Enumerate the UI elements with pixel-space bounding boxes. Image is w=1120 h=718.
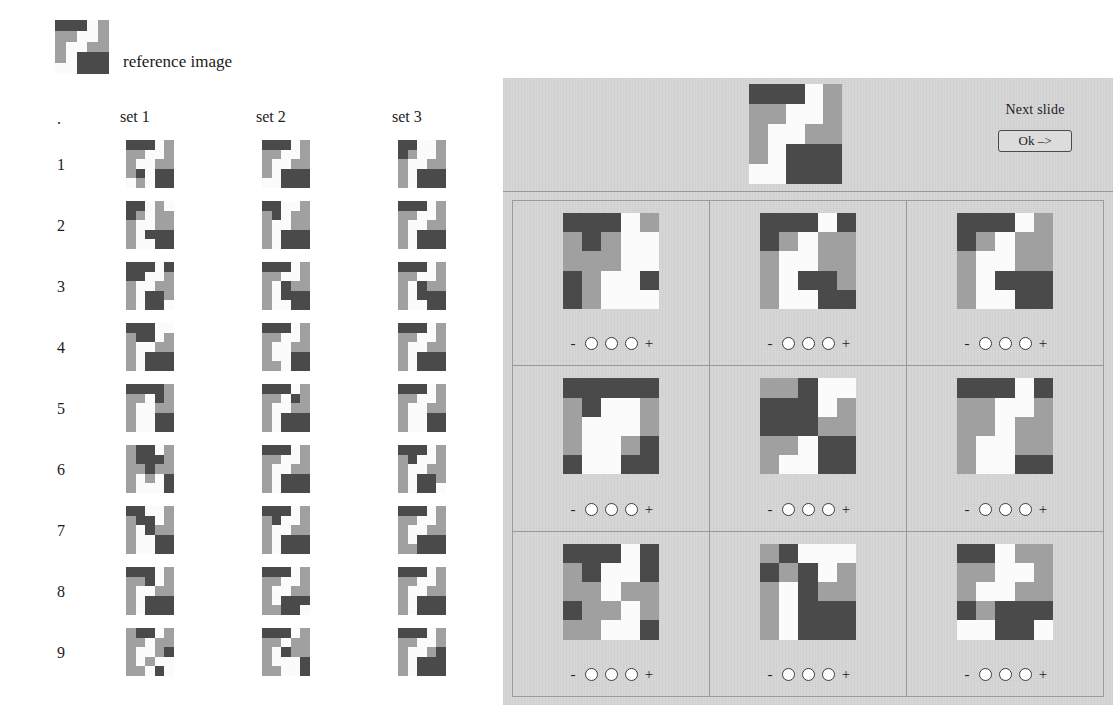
pattern-cell <box>300 506 310 516</box>
pattern-cell <box>145 474 155 484</box>
pattern-cell <box>417 455 427 465</box>
pattern-cell <box>272 525 282 535</box>
rating-radio-4-3[interactable] <box>625 503 638 516</box>
pattern-cell <box>601 213 620 232</box>
pattern-cell <box>601 601 620 620</box>
pattern-cell <box>427 413 437 423</box>
pattern-cell <box>272 628 282 638</box>
rating-radio-1-1[interactable] <box>585 337 598 350</box>
pattern-cell <box>281 628 291 638</box>
ok-button[interactable]: Ok –> <box>998 130 1072 152</box>
thumbnail-set-3-row-6 <box>398 445 446 493</box>
rating-radio-4-1[interactable] <box>585 503 598 516</box>
pattern-cell <box>291 483 301 493</box>
rating-radio-8-1[interactable] <box>782 668 795 681</box>
choice-cell-8[interactable]: -+ <box>710 532 907 697</box>
rating-radio-9-2[interactable] <box>999 668 1012 681</box>
choice-cell-5[interactable]: -+ <box>710 366 907 531</box>
rating-radio-9-3[interactable] <box>1019 668 1032 681</box>
pattern-cell <box>164 220 174 230</box>
pattern-cell <box>155 140 165 150</box>
pattern-cell <box>749 84 768 104</box>
pattern-cell <box>976 290 995 309</box>
pattern-cell <box>837 455 856 474</box>
pattern-cell <box>1034 251 1053 270</box>
reference-pattern-grid <box>55 20 109 74</box>
pattern-cell <box>155 455 165 465</box>
pattern-cell <box>640 271 659 290</box>
choice-cell-6[interactable]: -+ <box>907 366 1104 531</box>
pattern-cell <box>126 445 136 455</box>
pattern-cell <box>126 333 136 343</box>
rating-radio-7-1[interactable] <box>585 668 598 681</box>
pattern-cell <box>272 150 282 160</box>
pattern-cell <box>300 230 310 240</box>
rating-radio-6-3[interactable] <box>1019 503 1032 516</box>
rating-radio-1-3[interactable] <box>625 337 638 350</box>
pattern-cell <box>155 201 165 211</box>
choice-cell-9[interactable]: -+ <box>907 532 1104 697</box>
pattern-cell <box>408 140 418 150</box>
pattern-cell <box>126 220 136 230</box>
pattern-cell <box>417 150 427 160</box>
pattern-cell <box>417 605 427 615</box>
pattern-cell <box>145 403 155 413</box>
pattern-cell <box>779 563 798 582</box>
rating-control-2: -+ <box>710 336 906 351</box>
pattern-cell <box>136 516 146 526</box>
pattern-cell <box>408 323 418 333</box>
pattern-cell <box>291 506 301 516</box>
pattern-cell <box>1015 582 1034 601</box>
rating-radio-9-1[interactable] <box>979 668 992 681</box>
pattern-cell <box>164 506 174 516</box>
pattern-cell <box>164 150 174 160</box>
pattern-cell <box>582 213 601 232</box>
rating-radio-3-1[interactable] <box>979 337 992 350</box>
rating-radio-1-2[interactable] <box>605 337 618 350</box>
pattern-cell <box>300 516 310 526</box>
pattern-cell <box>995 620 1014 639</box>
thumbnail-set-1-row-2 <box>126 201 174 249</box>
pattern-cell <box>281 220 291 230</box>
choice-cell-7[interactable]: -+ <box>513 532 710 697</box>
pattern-cell <box>621 290 640 309</box>
pattern-cell <box>262 474 272 484</box>
rating-radio-8-2[interactable] <box>802 668 815 681</box>
pattern-cell <box>155 150 165 160</box>
pattern-cell <box>957 251 976 270</box>
pattern-cell <box>272 413 282 423</box>
rating-radio-4-2[interactable] <box>605 503 618 516</box>
pattern-cell <box>281 605 291 615</box>
rating-radio-6-1[interactable] <box>979 503 992 516</box>
rating-radio-2-3[interactable] <box>822 337 835 350</box>
rating-radio-6-2[interactable] <box>999 503 1012 516</box>
rating-radio-5-3[interactable] <box>822 503 835 516</box>
rating-radio-5-1[interactable] <box>782 503 795 516</box>
rating-radio-3-3[interactable] <box>1019 337 1032 350</box>
pattern-cell <box>272 403 282 413</box>
rating-radio-3-2[interactable] <box>999 337 1012 350</box>
pattern-cell <box>427 567 437 577</box>
choice-cell-2[interactable]: -+ <box>710 201 907 366</box>
set-2-header: set 2 <box>256 108 286 126</box>
pattern-cell <box>145 178 155 188</box>
row-label-7: 7 <box>57 522 83 540</box>
pattern-cell <box>779 251 798 270</box>
pattern-cell <box>417 230 427 240</box>
rating-radio-8-3[interactable] <box>822 668 835 681</box>
rating-radio-5-2[interactable] <box>802 503 815 516</box>
pattern-cell <box>408 272 418 282</box>
pattern-cell <box>805 144 824 164</box>
pattern-cell <box>262 657 272 667</box>
choice-cell-4[interactable]: -+ <box>513 366 710 531</box>
rating-radio-2-1[interactable] <box>782 337 795 350</box>
choice-cell-3[interactable]: -+ <box>907 201 1104 366</box>
pattern-cell <box>300 455 310 465</box>
pattern-cell <box>291 239 301 249</box>
rating-radio-7-2[interactable] <box>605 668 618 681</box>
pattern-cell <box>957 213 976 232</box>
rating-radio-7-3[interactable] <box>625 668 638 681</box>
pattern-cell <box>621 620 640 639</box>
choice-cell-1[interactable]: -+ <box>513 201 710 366</box>
rating-radio-2-2[interactable] <box>802 337 815 350</box>
